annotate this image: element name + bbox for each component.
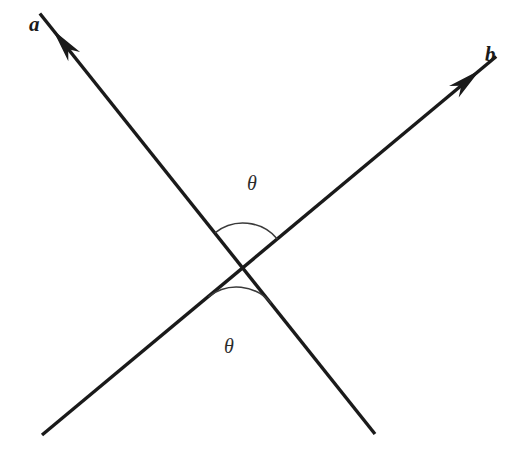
vector-b-shaft	[42, 57, 496, 435]
vector-b-label: b	[485, 44, 496, 65]
vector-b-group	[42, 57, 496, 435]
vector-angle-diagram: a b θ θ	[0, 0, 528, 453]
vector-a-group	[40, 14, 375, 434]
diagram-canvas	[0, 0, 528, 453]
angle-label-top: θ	[247, 173, 257, 193]
vector-a-label: a	[29, 14, 40, 35]
vector-a-shaft	[40, 14, 375, 434]
angle-arc-top	[215, 223, 278, 239]
angle-label-bottom: θ	[224, 336, 234, 356]
